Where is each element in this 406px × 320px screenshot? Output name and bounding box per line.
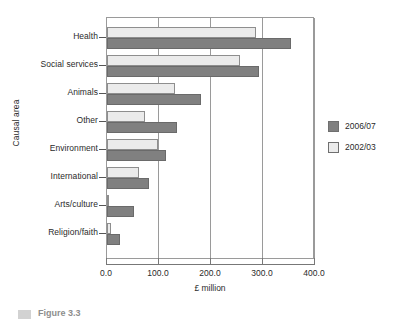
bar-2002-03 [107, 167, 139, 178]
chart-legend: 2006/072002/03 [328, 118, 402, 160]
category-tick [99, 149, 106, 150]
bar-group [107, 83, 313, 105]
category-axis-labels: HealthSocial servicesAnimalsOtherEnviron… [0, 17, 106, 259]
bar-2006-07 [107, 206, 134, 217]
category-tick [99, 37, 106, 38]
bar-chart-figure: Causal area HealthSocial servicesAnimals… [0, 0, 406, 320]
plot-area [106, 17, 314, 259]
legend-label: 2006/07 [345, 121, 376, 131]
category-tick [99, 121, 106, 122]
gridline [314, 18, 315, 258]
gridline [262, 18, 263, 258]
bar-2006-07 [107, 38, 291, 49]
legend-swatch [328, 142, 339, 153]
x-tick [106, 258, 107, 265]
bar-2006-07 [107, 178, 149, 189]
x-tick-label: 0.0 [86, 268, 126, 278]
bar-group [107, 55, 313, 77]
x-tick [262, 258, 263, 265]
bar-group [107, 139, 313, 161]
category-label-social-services: Social services [41, 59, 98, 69]
category-tick [99, 93, 106, 94]
figure-caption: Figure 3.3 [38, 308, 81, 318]
x-tick-label: 300.0 [242, 268, 282, 278]
gridline [210, 18, 211, 258]
x-tick-label: 200.0 [190, 268, 230, 278]
bar-group [107, 167, 313, 189]
bar-group [107, 111, 313, 133]
bar-group [107, 195, 313, 217]
x-tick-label: 100.0 [138, 268, 178, 278]
x-tick [210, 258, 211, 265]
legend-label: 2002/03 [345, 142, 376, 152]
category-label-international: International [51, 171, 98, 181]
x-tick [158, 258, 159, 265]
caption-swatch [18, 310, 31, 319]
x-tick-label: 400.0 [294, 268, 334, 278]
bar-2006-07 [107, 122, 177, 133]
bar-2002-03 [107, 139, 158, 150]
legend-item: 2006/07 [328, 118, 402, 134]
bar-2006-07 [107, 66, 259, 77]
gridline [158, 18, 159, 258]
bar-group [107, 223, 313, 245]
bar-group [107, 27, 313, 49]
category-tick [99, 65, 106, 66]
category-tick [99, 205, 106, 206]
legend-swatch [328, 121, 339, 132]
category-label-environment: Environment [50, 143, 98, 153]
bar-2002-03 [107, 111, 145, 122]
category-tick [99, 177, 106, 178]
legend-item: 2002/03 [328, 139, 402, 155]
bar-2006-07 [107, 94, 201, 105]
x-tick [314, 258, 315, 265]
category-label-religion-faith: Religion/faith [48, 227, 98, 237]
category-label-arts-culture: Arts/culture [54, 199, 98, 209]
bar-2002-03 [107, 195, 109, 206]
category-tick [99, 233, 106, 234]
caption-strip: Figure 3.3 [0, 308, 406, 320]
bar-2002-03 [107, 223, 111, 234]
bar-2002-03 [107, 55, 240, 66]
bar-2002-03 [107, 83, 175, 94]
bar-2006-07 [107, 150, 166, 161]
category-label-animals: Animals [67, 87, 98, 97]
bar-2006-07 [107, 234, 120, 245]
category-label-other: Other [76, 115, 98, 125]
x-axis-title: £ million [106, 283, 314, 293]
bar-2002-03 [107, 27, 256, 38]
category-label-health: Health [73, 31, 98, 41]
